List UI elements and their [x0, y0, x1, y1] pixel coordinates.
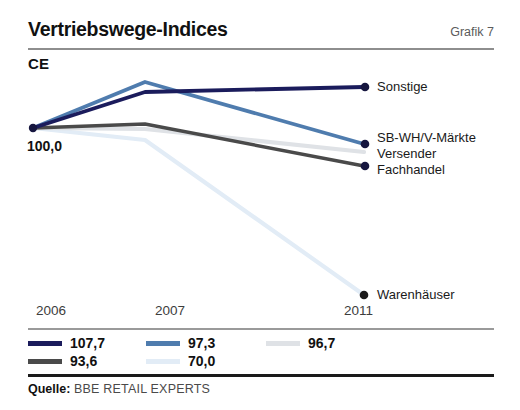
series-line-versender: [33, 128, 364, 152]
chart-page: Vertriebswege-Indices Grafik 7 CE 100,0 …: [0, 0, 520, 410]
series-label-fachhandel: Fachhandel: [377, 163, 445, 177]
legend-swatch-warenhaeuser: [146, 359, 180, 364]
endpoint-marker-sbwh: [361, 140, 370, 149]
legend-value-versender: 96,7: [308, 335, 335, 351]
legend-value-warenhaeuser: 70,0: [188, 353, 215, 369]
source-text: BBE RETAIL EXPERTS: [70, 382, 210, 396]
axis-divider: [28, 328, 494, 330]
source-label: Quelle:: [28, 382, 70, 396]
legend-item-sonstige: 107,7: [28, 334, 105, 352]
legend-swatch-sonstige: [28, 341, 62, 346]
legend-item-fachhandel: 93,6: [28, 352, 97, 370]
series-line-sonstige: [33, 87, 364, 128]
legend-swatch-sbwh: [146, 341, 180, 346]
series-line-warenhaeuser: [33, 128, 364, 295]
legend-swatch-versender: [266, 341, 300, 346]
chart-header: Vertriebswege-Indices Grafik 7: [28, 18, 494, 52]
endpoint-marker-sonstige: [361, 83, 370, 92]
legend-item-sbwh: 97,3: [146, 334, 215, 352]
legend-value-sonstige: 107,7: [70, 335, 105, 351]
header-divider: [28, 48, 494, 50]
series-label-sbwh: SB-WH/V-Märkte: [377, 131, 476, 145]
endpoint-marker-fachhandel: [361, 162, 370, 171]
axis-tick-2006: 2006: [36, 303, 66, 318]
legend-value-fachhandel: 93,6: [70, 353, 97, 369]
legend-item-versender: 96,7: [266, 334, 335, 352]
start-point-marker: [29, 124, 37, 132]
series-label-warenhaeuser: Warenhäuser: [377, 288, 455, 302]
chart-subtitle: CE: [28, 55, 49, 72]
start-value-label: 100,0: [27, 138, 62, 154]
figure-number: Grafik 7: [450, 25, 494, 39]
axis-tick-2007: 2007: [155, 303, 185, 318]
series-line-sbwh: [33, 82, 364, 144]
legend-item-warenhaeuser: 70,0: [146, 352, 215, 370]
legend-value-sbwh: 97,3: [188, 335, 215, 351]
page-title: Vertriebswege-Indices: [28, 18, 228, 41]
series-label-versender: Versender: [377, 147, 436, 161]
source-line: Quelle: BBE RETAIL EXPERTS: [28, 382, 210, 396]
endpoint-marker-warenhaeuser: [360, 291, 369, 300]
legend-divider: [28, 374, 494, 377]
series-line-fachhandel: [33, 124, 364, 166]
axis-tick-2011: 2011: [344, 303, 373, 318]
legend-row: 93,6 70,0: [28, 352, 494, 370]
legend-swatch-fachhandel: [28, 359, 62, 364]
legend-row: 107,7 97,3 96,7: [28, 334, 494, 352]
series-label-sonstige: Sonstige: [377, 80, 428, 94]
